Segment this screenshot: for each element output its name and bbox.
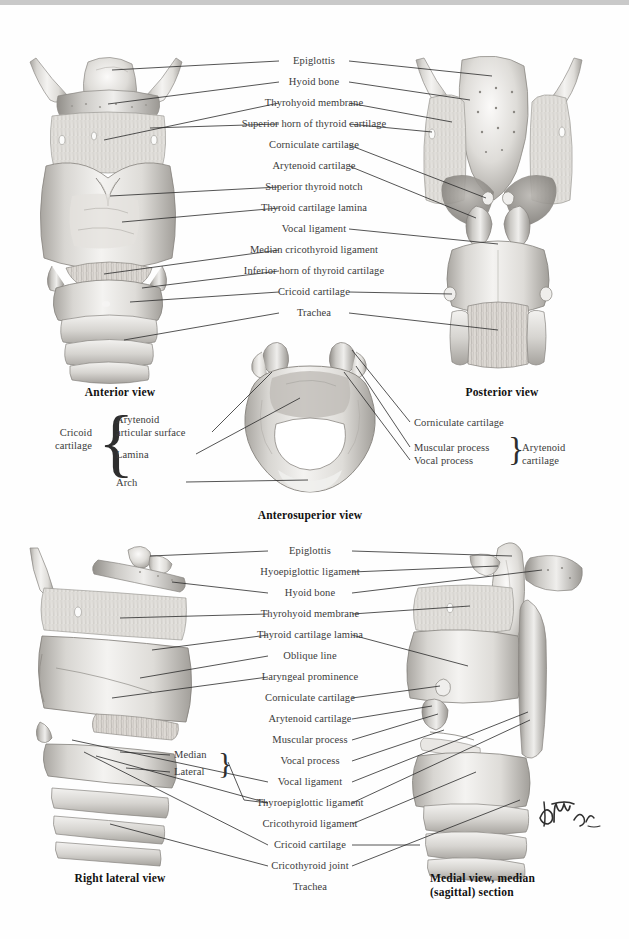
label-trachea-top: Trachea: [297, 307, 331, 319]
label-thyrohyoid-membrane-bottom: Thyrohyoid membrane: [261, 608, 359, 620]
label-hyoepiglottic-ligament: Hyoepiglottic ligament: [260, 566, 359, 578]
posterior-view-illustration: [416, 56, 582, 368]
caption-posterior-view: Posterior view: [465, 386, 538, 399]
label-arytenoid-cartilage-group-line1: Arytenoid: [522, 442, 565, 454]
label-corniculate-cartilage-top: Corniculate cartilage: [269, 139, 359, 151]
label-thyrohyoid-membrane-anterior: Thyrohyoid membrane: [265, 97, 363, 109]
label-thyroid-cartilage-lamina-top: Thyroid cartilage lamina: [261, 202, 367, 214]
label-cricothyroid-joint: Cricothyroid joint: [271, 860, 348, 872]
label-cricoid-cartilage-top: Cricoid cartilage: [278, 286, 350, 298]
label-corniculate-cartilage-bottom: Corniculate cartilage: [265, 692, 355, 704]
label-vocal-process-bottom: Vocal process: [280, 755, 339, 767]
label-cricoid-arch: Arch: [116, 477, 137, 489]
median-lateral-brace: }: [218, 748, 232, 778]
label-trachea-bottom: Trachea: [293, 881, 327, 893]
anterior-view-illustration: [30, 57, 182, 383]
label-oblique-line: Oblique line: [283, 650, 336, 662]
label-vocal-ligament-bottom: Vocal ligament: [278, 776, 342, 788]
label-epiglottis-anterior: Epiglottis: [293, 55, 335, 67]
caption-medial-view-line1: Medial view, median: [430, 872, 535, 885]
label-cricoid-lamina: Lamina: [116, 449, 149, 461]
caption-right-lateral-view: Right lateral view: [74, 872, 165, 885]
caption-medial-view-line2: (sagittal) section: [430, 886, 514, 899]
label-inferior-horn-thyroid-cartilage: Inferior horn of thyroid cartilage: [244, 265, 384, 277]
anterosuperior-view-illustration: [245, 342, 375, 492]
label-cricoid-cartilage-group-line2: cartilage: [55, 440, 92, 452]
caption-anterior-view: Anterior view: [85, 386, 155, 399]
label-arytenoid-cartilage-bottom: Arytenoid cartilage: [268, 713, 351, 725]
medial-sagittal-view-illustration: [407, 543, 582, 881]
label-thyroid-cartilage-lamina-bottom: Thyroid cartilage lamina: [257, 629, 363, 641]
label-arytenoid-articular-surface-line2: articular surface: [116, 427, 186, 439]
label-cricoid-cartilage-bottom: Cricoid cartilage: [274, 839, 346, 851]
label-cricothyroid-ligament: Cricothyroid ligament: [262, 818, 357, 830]
label-lateral-cricothyroid: Lateral: [174, 766, 204, 778]
label-superior-thyroid-notch: Superior thyroid notch: [265, 181, 362, 193]
right-lateral-view-illustration: [30, 546, 192, 866]
anatomy-plate: Epiglottis Hyoid bone Thyrohyoid membran…: [0, 0, 629, 939]
label-muscular-process-bottom: Muscular process: [272, 734, 347, 746]
label-cricoid-cartilage-group-line1: Cricoid: [60, 427, 92, 439]
label-thyroepiglottic-ligament: Thyroepiglottic ligament: [256, 797, 363, 809]
label-vocal-process-middle: Vocal process: [414, 455, 473, 467]
label-hyoid-bone-bottom: Hyoid bone: [285, 587, 335, 599]
label-vocal-ligament-top: Vocal ligament: [282, 223, 346, 235]
label-arytenoid-cartilage-group-line2: cartilage: [522, 455, 559, 467]
label-superior-horn-thyroid-cartilage: Superior horn of thyroid cartilage: [242, 118, 387, 130]
label-arytenoid-cartilage-top: Arytenoid cartilage: [272, 160, 355, 172]
label-median-cricothyroid-ligament: Median cricothyroid ligament: [250, 244, 378, 256]
label-epiglottis-bottom: Epiglottis: [289, 545, 331, 557]
label-arytenoid-articular-surface-line1: Arytenoid: [116, 414, 159, 426]
label-laryngeal-prominence: Laryngeal prominence: [262, 671, 359, 683]
label-median-cricothyroid: Median: [174, 749, 207, 761]
artist-signature: [540, 802, 600, 827]
label-hyoid-bone-anterior: Hyoid bone: [289, 76, 339, 88]
caption-anterosuperior-view: Anterosuperior view: [258, 509, 363, 522]
label-corniculate-cartilage-middle: Corniculate cartilage: [414, 417, 504, 429]
label-muscular-process-middle: Muscular process: [414, 442, 489, 454]
